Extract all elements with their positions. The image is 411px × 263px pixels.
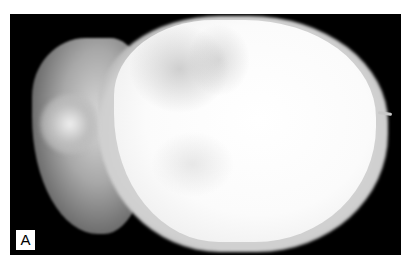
tumor-cut-surface <box>114 20 376 242</box>
panel-label: A <box>15 229 36 251</box>
specimen-photo <box>10 14 401 255</box>
tissue-fold <box>40 94 100 154</box>
